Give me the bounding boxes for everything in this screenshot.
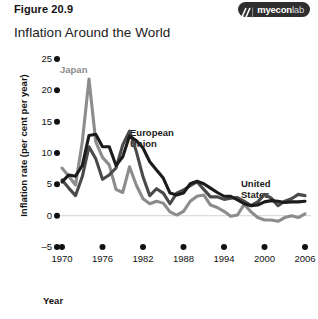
logo-wordmark: myeconlab xyxy=(257,5,304,15)
y-axis-tick-label: 15 xyxy=(30,116,52,127)
x-axis-tick-dot xyxy=(140,244,146,250)
x-axis-tick-dot xyxy=(100,244,106,250)
x-axis-tick-label: 1988 xyxy=(167,253,201,264)
x-axis-tick-label: 2006 xyxy=(288,253,318,264)
y-axis-tick-label: 20 xyxy=(30,84,52,95)
x-axis-tick-dot xyxy=(181,244,187,250)
x-axis-tick-label: 2000 xyxy=(248,253,282,264)
x-axis-tick-dot xyxy=(59,244,65,250)
logo-wordmark-primary: myecon xyxy=(257,4,292,15)
chart-title: Inflation Around the World xyxy=(14,25,170,40)
x-axis-tick-dot xyxy=(221,244,227,250)
logo-wordmark-secondary: lab xyxy=(292,4,304,15)
figure-number-label: Figure 20.9 xyxy=(14,3,73,15)
slash-mark-icon xyxy=(241,4,254,15)
y-axis-tick-label: 10 xyxy=(30,147,52,158)
y-axis-tick-dot xyxy=(54,213,60,219)
y-axis-tick-dot xyxy=(54,181,60,187)
y-axis-tick-label: 0 xyxy=(30,210,52,221)
x-axis-tick-label: 1982 xyxy=(126,253,160,264)
y-axis-tick-label: –5 xyxy=(30,241,52,252)
x-axis-tick-dot xyxy=(302,244,308,250)
y-axis-tick-label: 25 xyxy=(30,53,52,64)
x-axis-tick-label: 1994 xyxy=(207,253,241,264)
y-axis-tick-label: 5 xyxy=(30,178,52,189)
chart-plot-area: Inflation rate (per cent per year) Year … xyxy=(0,48,318,319)
y-axis-tick-dot xyxy=(54,119,60,125)
x-axis-tick-label: 1970 xyxy=(45,253,79,264)
myeconlab-logo[interactable]: myeconlab xyxy=(238,2,310,17)
figure-header: Figure 20.9 myeconlab xyxy=(0,0,318,22)
y-axis-tick-dot xyxy=(54,87,60,93)
x-axis-tick-dot xyxy=(262,244,268,250)
x-axis-tick-label: 1976 xyxy=(86,253,120,264)
y-axis-tick-dot xyxy=(54,150,60,156)
data-series-lines xyxy=(62,79,305,221)
y-axis-tick-dot xyxy=(54,56,60,62)
